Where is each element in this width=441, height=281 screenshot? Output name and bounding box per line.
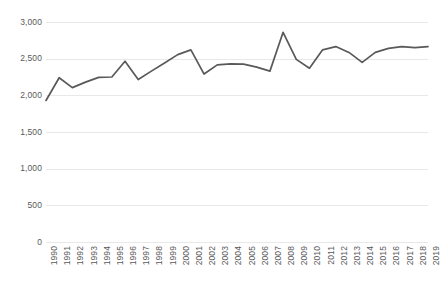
y-axis-tick-label: 3,000 xyxy=(20,18,42,27)
x-axis-tick-label: 1994 xyxy=(103,246,112,265)
x-axis-tick-label: 2013 xyxy=(353,246,362,265)
data-series-line xyxy=(46,22,428,242)
x-axis-tick-label: 2003 xyxy=(221,246,230,265)
x-axis-tick-label: 2000 xyxy=(182,246,191,265)
y-axis-tick-label: 500 xyxy=(28,201,42,210)
x-axis-tick-label: 2019 xyxy=(432,246,441,265)
x-axis-tick-label: 1992 xyxy=(76,246,85,265)
x-axis-tick-label: 2009 xyxy=(300,246,309,265)
x-axis-tick-label: 1998 xyxy=(155,246,164,265)
x-axis-tick-label: 2005 xyxy=(248,246,257,265)
x-axis-tick-label: 2006 xyxy=(261,246,270,265)
y-axis-tick-label: 1,000 xyxy=(20,164,42,173)
x-axis-tick-label: 1991 xyxy=(63,246,72,265)
plot-area xyxy=(46,22,428,242)
gridline xyxy=(46,242,428,243)
x-axis-tick-label: 1999 xyxy=(169,246,178,265)
x-axis-tick-label: 2007 xyxy=(274,246,283,265)
x-axis: 1990199119921993199419951996199719981999… xyxy=(46,246,428,281)
x-axis-tick-label: 1990 xyxy=(50,246,59,265)
x-axis-tick-label: 2014 xyxy=(366,246,375,265)
y-axis: 3,0002,5002,0001,5001,0005000 xyxy=(0,0,42,281)
x-axis-tick-label: 2012 xyxy=(340,246,349,265)
x-axis-tick-label: 2008 xyxy=(287,246,296,265)
x-axis-tick-label: 2016 xyxy=(392,246,401,265)
x-axis-tick-label: 1995 xyxy=(116,246,125,265)
y-axis-tick-label: 0 xyxy=(37,238,42,247)
x-axis-tick-label: 2002 xyxy=(208,246,217,265)
x-axis-tick-label: 2004 xyxy=(234,246,243,265)
x-axis-tick-label: 2017 xyxy=(406,246,415,265)
x-axis-tick-label: 2015 xyxy=(379,246,388,265)
x-axis-tick-label: 2018 xyxy=(419,246,428,265)
x-axis-tick-label: 2010 xyxy=(313,246,322,265)
x-axis-tick-label: 1993 xyxy=(90,246,99,265)
y-axis-tick-label: 2,000 xyxy=(20,91,42,100)
x-axis-tick-label: 1997 xyxy=(142,246,151,265)
y-axis-tick-label: 2,500 xyxy=(20,54,42,63)
series-path xyxy=(46,32,428,100)
x-axis-tick-label: 1996 xyxy=(129,246,138,265)
x-axis-tick-label: 2011 xyxy=(327,246,336,265)
x-axis-tick-label: 2001 xyxy=(195,246,204,265)
y-axis-tick-label: 1,500 xyxy=(20,128,42,137)
